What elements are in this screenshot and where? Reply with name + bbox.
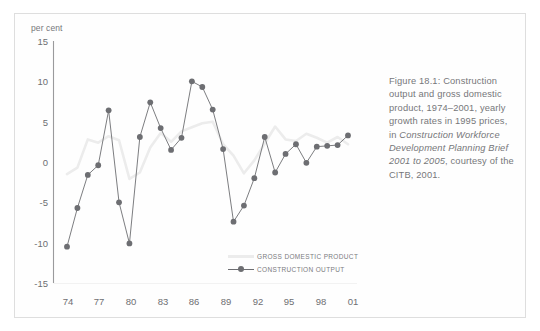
legend-label-gdp: GROSS DOMESTIC PRODUCT	[257, 253, 358, 260]
figure-caption: Figure 18.1: Construction output and gro…	[389, 75, 517, 182]
data-point	[293, 141, 299, 147]
data-point	[345, 132, 351, 138]
data-point	[85, 172, 91, 178]
figure-page: per cent 15 10 5 0 -5 -10 -15 74 77 80 8…	[0, 0, 540, 331]
legend-swatch-gdp	[228, 251, 254, 262]
data-point	[189, 78, 195, 84]
chart-legend: GROSS DOMESTIC PRODUCT CONSTRUCTION OUTP…	[228, 250, 358, 276]
data-point	[199, 84, 205, 90]
data-point	[231, 219, 237, 225]
legend-swatch-construction	[228, 264, 254, 275]
data-point	[158, 125, 164, 131]
data-point	[210, 107, 216, 113]
data-point	[272, 170, 278, 176]
data-point	[75, 205, 81, 211]
data-point	[241, 203, 247, 209]
data-point	[116, 199, 122, 205]
data-point	[64, 244, 70, 250]
data-point	[147, 99, 153, 105]
data-point	[106, 107, 112, 113]
data-point	[95, 162, 101, 168]
chart-plot	[0, 0, 360, 331]
chart-area: per cent 15 10 5 0 -5 -10 -15 74 77 80 8…	[0, 0, 360, 331]
series-line-gdp	[67, 122, 348, 179]
data-point	[168, 147, 174, 153]
data-point	[303, 160, 309, 166]
legend-item-gdp: GROSS DOMESTIC PRODUCT	[228, 250, 358, 263]
legend-label-construction: CONSTRUCTION OUTPUT	[257, 266, 345, 273]
data-point	[179, 135, 185, 141]
data-point	[251, 175, 257, 181]
data-point	[314, 144, 320, 150]
series-markers-construction	[64, 78, 351, 249]
data-point	[127, 241, 133, 247]
data-point	[283, 151, 289, 157]
data-point	[335, 142, 341, 148]
legend-item-construction: CONSTRUCTION OUTPUT	[228, 263, 358, 276]
data-point	[262, 134, 268, 140]
data-point	[137, 134, 143, 140]
data-point	[220, 146, 226, 152]
data-point	[324, 143, 330, 149]
